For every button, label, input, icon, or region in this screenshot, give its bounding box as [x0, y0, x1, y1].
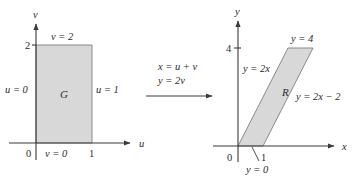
edge-label-v-equals-2: v = 2	[51, 31, 74, 42]
edge-label-u-equals-0: u = 0	[5, 84, 29, 95]
right-plot-xy-plane: x y 4 1 0 R y = 4 y = 0 y = 2x y = 2x − …	[213, 6, 347, 175]
edge-label-y-equals-2x-minus-2: y = 2x − 2	[295, 91, 341, 102]
v-tick-label-2: 2	[25, 40, 30, 51]
left-plot-uv-plane: u v 2 1 0 G v = 2 v = 0 u = 0 u = 1	[5, 9, 144, 160]
v-axis-label: v	[33, 9, 38, 20]
right-origin-label: 0	[227, 152, 232, 163]
y-tick-label-4: 4	[226, 43, 232, 54]
region-R-label: R	[281, 86, 289, 98]
edge-label-y-equals-4: y = 4	[290, 33, 314, 44]
transform-equation-x: x = u + v	[157, 61, 198, 72]
transformation-figure: u v 2 1 0 G v = 2 v = 0 u = 0 u = 1 x = …	[0, 0, 354, 180]
transform-equation-y: y = 2v	[157, 75, 185, 86]
region-G-label: G	[60, 88, 68, 100]
left-origin-label: 0	[26, 148, 31, 159]
x-axis-label: x	[341, 141, 347, 152]
edge-label-v-equals-0: v = 0	[45, 148, 68, 159]
edge-label-u-equals-1: u = 1	[96, 84, 119, 95]
y-equals-0-leader-line	[252, 147, 259, 161]
edge-label-y-equals-0: y = 0	[245, 164, 269, 175]
transform-block: x = u + v y = 2v	[146, 61, 212, 96]
u-axis-label: u	[139, 138, 144, 149]
y-axis-label: y	[234, 6, 240, 17]
edge-label-y-equals-2x: y = 2x	[242, 63, 270, 74]
x-tick-label-1: 1	[261, 152, 266, 163]
u-tick-label-1: 1	[89, 148, 94, 159]
